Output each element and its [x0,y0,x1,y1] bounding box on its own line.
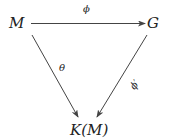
node-m: M [9,14,24,32]
diagram-arrows [0,0,170,140]
arrow-phi-prime [97,35,147,117]
label-theta: θ [59,62,65,73]
arrow-theta [32,35,78,117]
node-k-m: K(M) [70,121,108,139]
label-phi: ϕ [83,3,90,14]
node-g: G [147,14,159,32]
